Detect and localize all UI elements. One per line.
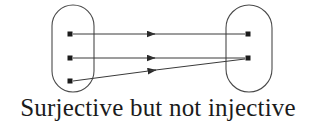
mapping-arrow-a3-b2 [73, 59, 245, 81]
domain-element-dot-a3 [68, 79, 73, 84]
codomain-element-dot-b2 [246, 56, 251, 61]
codomain-element-dot-b1 [246, 32, 251, 37]
figure-caption: Surjective but not injective [0, 93, 316, 123]
domain-element-dot-a2 [68, 56, 73, 61]
mapping-diagram-figure: Surjective but not injective [0, 0, 316, 126]
codomain-set-boundary [226, 5, 272, 92]
domain-element-dot-a1 [68, 32, 73, 37]
